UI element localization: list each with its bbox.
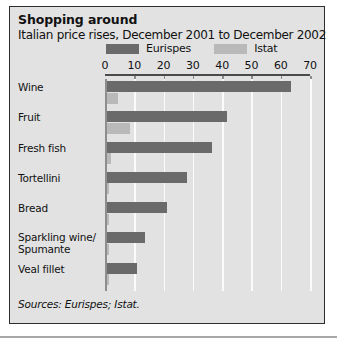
bar-istat — [105, 93, 118, 104]
x-axis-tick-label: 70 — [303, 59, 317, 72]
legend-swatch-eurispes — [106, 44, 139, 54]
bar-eurispes — [105, 111, 227, 122]
chart-figure: Shopping around Italian price rises, Dec… — [9, 6, 325, 324]
bar-eurispes — [105, 263, 137, 274]
legend-item-eurispes: Eurispes — [106, 42, 191, 55]
category-label-line: Veal fillet — [18, 264, 64, 276]
bar-eurispes — [105, 232, 145, 243]
bar-eurispes — [105, 142, 212, 153]
x-axis-tick-label: 10 — [127, 59, 141, 72]
bar-eurispes — [105, 172, 187, 183]
chart-legend: Eurispes Istat — [106, 42, 277, 55]
x-axis-tick-label: 30 — [186, 59, 200, 72]
gridline — [251, 79, 253, 291]
legend-item-istat: Istat — [214, 42, 277, 55]
source-note: Sources: Eurispes; Istat. — [18, 298, 140, 310]
legend-label-eurispes: Eurispes — [146, 42, 191, 55]
gridline — [310, 79, 312, 291]
category-label: Fresh fish — [18, 143, 66, 155]
category-label: Bread — [18, 203, 48, 215]
category-label-line: Bread — [18, 203, 48, 215]
category-label-line: Tortellini — [18, 173, 60, 185]
category-label-line: Wine — [18, 82, 43, 94]
x-axis-tick-label: 60 — [274, 59, 288, 72]
legend-label-istat: Istat — [254, 42, 277, 55]
y-axis-line — [105, 79, 107, 291]
gridline — [281, 79, 283, 291]
plot-area — [105, 79, 310, 291]
category-label: Tortellini — [18, 173, 60, 185]
category-label: Fruit — [18, 112, 40, 124]
x-axis-tick-label: 20 — [157, 59, 171, 72]
category-label-line: Fruit — [18, 112, 40, 124]
bottom-divider — [0, 336, 337, 338]
chart-title: Shopping around — [18, 12, 318, 27]
x-axis-tick-label: 40 — [215, 59, 229, 72]
category-label: Veal fillet — [18, 264, 64, 276]
x-axis-tick-label: 0 — [102, 59, 109, 72]
chart-subtitle: Italian price rises, December 2001 to De… — [18, 28, 318, 43]
x-axis-tick-label: 50 — [245, 59, 259, 72]
category-label-line: Fresh fish — [18, 143, 66, 155]
bar-istat — [105, 123, 130, 134]
category-label: Wine — [18, 82, 43, 94]
bar-eurispes — [105, 202, 167, 213]
legend-swatch-istat — [214, 44, 247, 54]
category-label: Sparkling wine/Spumante — [18, 232, 96, 255]
category-label-line: Spumante — [18, 244, 96, 256]
chart-header: Shopping around Italian price rises, Dec… — [18, 12, 318, 43]
bar-eurispes — [105, 81, 291, 92]
